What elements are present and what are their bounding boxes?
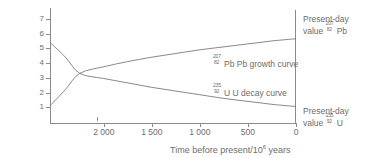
x-axis-tick-label: 2 000: [93, 128, 114, 137]
lead-isotope-notation-annotation: 207 82: [213, 58, 224, 67]
lead-isotope-notation-side: 207 82: [326, 25, 337, 34]
y-axis-tick-label: 5: [34, 44, 44, 52]
y-axis-tick-label: 4: [34, 59, 44, 67]
present-day-u-label: Present-day value 235 92 U: [303, 106, 349, 129]
present-day-pb-label: Present-day value 207 82 Pb: [303, 14, 349, 37]
x-axis-tick-label: 1 500: [141, 128, 162, 137]
x-axis-tick-label: 0: [294, 128, 299, 137]
uranium-isotope-notation-side: 235 92: [326, 117, 337, 126]
y-axis-tick-label: 1: [34, 103, 44, 111]
uranium-atomic-number: 92: [327, 119, 332, 124]
lead-atomic-number: 82: [214, 60, 219, 65]
lead-atomic-number: 82: [327, 27, 332, 32]
uranium-atomic-number: 92: [214, 89, 219, 94]
present-day-u-line2: value 235 92 U: [303, 117, 349, 129]
y-axis-tick-label: 3: [34, 74, 44, 82]
y-axis-tick-label: 7: [34, 15, 44, 23]
x-axis-title-suffix: years: [269, 145, 291, 155]
u-decay-curve-label: 235 92 U U decay curve: [213, 87, 287, 98]
present-day-u-value-word: value: [303, 118, 323, 128]
u-curve-annotation-text: U decay curve: [233, 88, 287, 98]
x-axis-title: Time before present/106 years: [170, 142, 291, 155]
uranium-symbol: U: [337, 118, 343, 128]
x-axis-title-exponent: 6: [263, 144, 266, 150]
uranium-symbol: U: [224, 88, 230, 98]
lead-symbol: Pb: [224, 59, 234, 69]
lead-symbol: Pb: [337, 26, 347, 36]
uranium-isotope-notation-annotation: 235 92: [213, 87, 224, 96]
x-axis-tick-label: 1 000: [189, 128, 210, 137]
present-day-pb-value-word: value: [303, 26, 323, 36]
chart-figure: amount of 235 92 U or 207 82 Pb /arbitra…: [0, 0, 389, 158]
x-axis-title-prefix: Time before present/10: [170, 145, 263, 155]
present-day-pb-line2: value 207 82 Pb: [303, 25, 349, 37]
pb-growth-curve-label: 207 82 Pb Pb growth curve: [213, 58, 298, 69]
pb-curve-annotation-text: Pb growth curve: [237, 59, 298, 69]
x-axis-line: [50, 123, 297, 124]
x-axis-tick-label: 500: [241, 128, 255, 137]
y-axis-tick-label: 2: [34, 89, 44, 97]
y-axis-tick-label: 6: [34, 30, 44, 38]
